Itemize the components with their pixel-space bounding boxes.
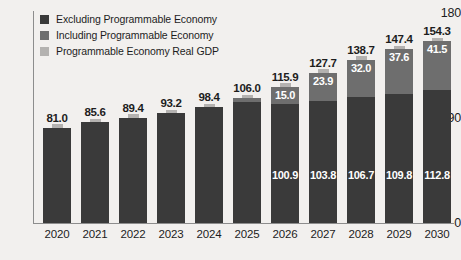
x-axis-label: 2026 xyxy=(266,228,304,240)
bar-total-label: 127.7 xyxy=(300,57,346,69)
bar-segment-including: 23.9 xyxy=(309,73,337,101)
bar-stack: 41.5112.8 xyxy=(423,38,451,223)
bar-stack xyxy=(233,95,261,223)
bar-group: 81.0 xyxy=(38,0,76,223)
x-axis-label: 2025 xyxy=(228,228,266,240)
x-axis-label: 2020 xyxy=(38,228,76,240)
bar-stack xyxy=(157,110,185,223)
bar-segment-excluding xyxy=(119,118,147,223)
bar-group: 32.0106.7138.7 xyxy=(342,0,380,223)
bar-segment-value: 109.8 xyxy=(385,169,413,181)
bar-total-label: 115.9 xyxy=(262,71,308,83)
bar-segment-excluding: 100.9 xyxy=(271,104,299,223)
bar-segment-excluding xyxy=(81,122,109,223)
bar-group: 89.4 xyxy=(114,0,152,223)
bar-group: 85.6 xyxy=(76,0,114,223)
bar-segment-excluding xyxy=(43,128,71,223)
bar-segment-including: 32.0 xyxy=(347,60,375,98)
bar-stack: 37.6109.8 xyxy=(385,46,413,223)
x-axis-line xyxy=(33,223,454,224)
bar-group: 37.6109.8147.4 xyxy=(380,0,418,223)
bar-segment-excluding xyxy=(233,102,261,223)
bar-segment-excluding: 106.7 xyxy=(347,97,375,223)
bar-segment-excluding xyxy=(157,113,185,223)
bar-segment-value: 37.6 xyxy=(385,51,413,63)
bar-stack: 32.0106.7 xyxy=(347,56,375,223)
bar-stack: 15.0100.9 xyxy=(271,83,299,223)
bar-segment-excluding: 103.8 xyxy=(309,101,337,223)
bar-segment-excluding xyxy=(195,107,223,223)
bar-segment-value: 112.8 xyxy=(423,169,451,181)
bar-segment-value: 32.0 xyxy=(347,62,375,74)
bar-group: 106.0 xyxy=(228,0,266,223)
bar-segment-value: 106.7 xyxy=(347,169,375,181)
bar-segment-excluding: 112.8 xyxy=(423,90,451,223)
bar-group: 98.4 xyxy=(190,0,228,223)
bar-segment-including: 37.6 xyxy=(385,49,413,93)
bar-segment-value: 15.0 xyxy=(271,89,299,101)
bar-stack xyxy=(81,119,109,223)
bar-total-label: 154.3 xyxy=(414,25,460,37)
bar-stack xyxy=(195,104,223,223)
x-axis-label: 2022 xyxy=(114,228,152,240)
bar-segment-excluding: 109.8 xyxy=(385,94,413,223)
x-axis-label: 2021 xyxy=(76,228,114,240)
bar-stack xyxy=(119,114,147,223)
stacked-bar-chart: 180 90 0 Excluding Programmable Economy … xyxy=(0,0,461,260)
bar-total-label: 106.0 xyxy=(224,82,270,94)
bar-segment-including: 41.5 xyxy=(423,41,451,90)
x-axis-label: 2029 xyxy=(380,228,418,240)
bar-total-label: 138.7 xyxy=(338,44,384,56)
x-axis-label: 2028 xyxy=(342,228,380,240)
plot-area: 81.085.689.493.298.4106.015.0100.9115.92… xyxy=(34,0,454,223)
bar-segment-value: 100.9 xyxy=(271,169,299,181)
bar-segment-including: 15.0 xyxy=(271,87,299,105)
bar-group: 15.0100.9115.9 xyxy=(266,0,304,223)
bar-stack: 23.9103.8 xyxy=(309,69,337,223)
bar-segment-value: 103.8 xyxy=(309,169,337,181)
bar-group: 23.9103.8127.7 xyxy=(304,0,342,223)
bar-stack xyxy=(43,124,71,223)
x-axis-label: 2030 xyxy=(418,228,456,240)
bar-segment-value: 23.9 xyxy=(309,75,337,87)
bar-group: 93.2 xyxy=(152,0,190,223)
x-axis-label: 2023 xyxy=(152,228,190,240)
bar-group: 41.5112.8154.3 xyxy=(418,0,456,223)
bar-segment-value: 41.5 xyxy=(423,43,451,55)
x-axis-label: 2024 xyxy=(190,228,228,240)
x-axis-label: 2027 xyxy=(304,228,342,240)
